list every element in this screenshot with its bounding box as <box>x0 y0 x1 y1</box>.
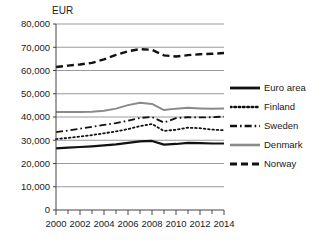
legend-item-denmark[interactable]: Denmark <box>230 135 326 154</box>
svg-text:2000: 2000 <box>45 218 66 229</box>
svg-text:20,000: 20,000 <box>21 158 50 169</box>
legend-swatch-finland <box>230 101 260 113</box>
svg-text:50,000: 50,000 <box>21 88 50 99</box>
legend-item-euro-area[interactable]: Euro area <box>230 78 326 97</box>
series-line-sweden <box>56 117 224 133</box>
svg-text:2012: 2012 <box>189 218 210 229</box>
series-line-norway <box>56 49 224 67</box>
chart-legend: Euro area Finland Sweden Denmark Norway <box>230 78 326 173</box>
series-line-euro-area <box>56 141 224 148</box>
svg-text:80,000: 80,000 <box>21 18 50 29</box>
legend-label-norway: Norway <box>264 158 296 169</box>
svg-text:40,000: 40,000 <box>21 111 50 122</box>
x-axis-ticks <box>56 210 224 215</box>
legend-label-finland: Finland <box>264 101 295 112</box>
legend-swatch-sweden <box>230 120 260 132</box>
svg-text:2002: 2002 <box>69 218 90 229</box>
svg-text:2010: 2010 <box>165 218 186 229</box>
legend-item-sweden[interactable]: Sweden <box>230 116 326 135</box>
line-chart: EUR 010,00020,00030,00040,00050,00060,00… <box>0 0 328 243</box>
svg-text:2006: 2006 <box>117 218 138 229</box>
svg-text:2004: 2004 <box>93 218 114 229</box>
svg-text:60,000: 60,000 <box>21 65 50 76</box>
legend-label-sweden: Sweden <box>264 120 298 131</box>
svg-text:0: 0 <box>45 204 50 215</box>
gridlines <box>53 24 224 210</box>
legend-item-norway[interactable]: Norway <box>230 154 326 173</box>
svg-text:2014: 2014 <box>213 218 234 229</box>
legend-item-finland[interactable]: Finland <box>230 97 326 116</box>
series-line-denmark <box>56 103 224 112</box>
legend-swatch-denmark <box>230 139 260 151</box>
legend-label-euro-area: Euro area <box>264 82 306 93</box>
svg-text:30,000: 30,000 <box>21 135 50 146</box>
legend-swatch-euro-area <box>230 82 260 94</box>
svg-text:70,000: 70,000 <box>21 42 50 53</box>
legend-swatch-norway <box>230 158 260 170</box>
y-axis-tick-labels: 010,00020,00030,00040,00050,00060,00070,… <box>21 18 50 215</box>
x-axis-tick-labels: 20002002200420062008201020122014 <box>45 218 234 229</box>
data-series-lines <box>56 49 224 148</box>
legend-label-denmark: Denmark <box>264 139 303 150</box>
svg-text:10,000: 10,000 <box>21 181 50 192</box>
svg-text:2008: 2008 <box>141 218 162 229</box>
series-line-finland <box>56 124 224 139</box>
